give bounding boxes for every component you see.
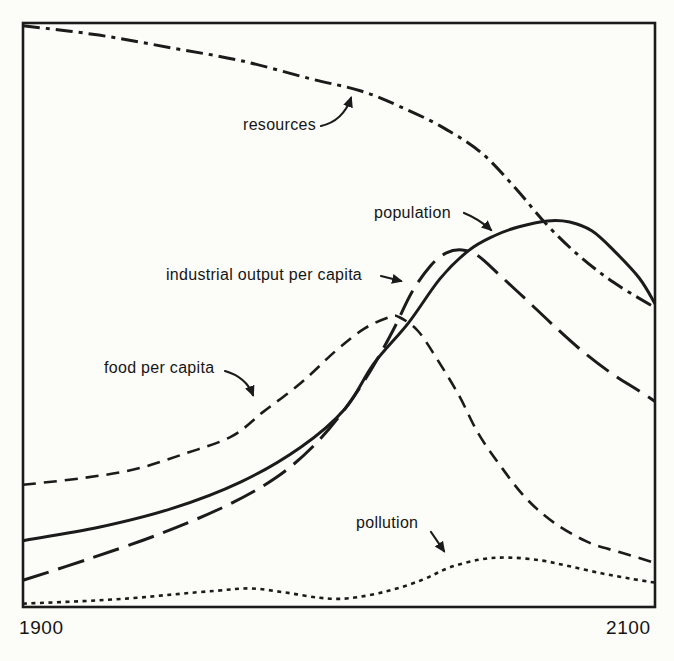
chart-canvas: resourcespopulationindustrial output per…: [0, 0, 674, 661]
x-axis-tick-2100: 2100: [606, 617, 651, 639]
curve-labels: resourcespopulationindustrial output per…: [104, 98, 491, 551]
label-arrow-food-per-capita: [225, 371, 253, 395]
curve-food-per-capita: [23, 315, 655, 562]
series-curves: [23, 26, 655, 604]
annotation-pollution: pollution: [356, 514, 444, 551]
label-arrow-industrial-output: [381, 276, 401, 281]
label-pollution: pollution: [356, 514, 418, 531]
world-model-figure: resourcespopulationindustrial output per…: [0, 0, 674, 661]
label-food-per-capita: food per capita: [104, 359, 214, 376]
label-arrow-resources: [321, 98, 351, 126]
x-axis-tick-1900: 1900: [19, 617, 64, 639]
annotation-food-per-capita: food per capita: [104, 359, 253, 395]
annotation-industrial-output: industrial output per capita: [166, 266, 401, 283]
plot-border: [23, 23, 655, 607]
curve-pollution: [23, 558, 655, 604]
label-population: population: [374, 204, 451, 221]
annotation-resources: resources: [243, 98, 351, 133]
label-arrow-population: [464, 213, 491, 230]
label-arrow-pollution: [431, 532, 444, 551]
label-industrial-output: industrial output per capita: [166, 266, 362, 283]
label-resources: resources: [243, 116, 316, 133]
annotation-population: population: [374, 204, 491, 230]
